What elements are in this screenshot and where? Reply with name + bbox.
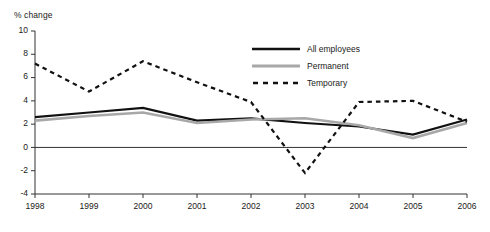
plot-area [0, 0, 490, 232]
series-lines [35, 61, 467, 173]
series-line-all-employees [35, 108, 467, 135]
series-line-temporary [35, 61, 467, 173]
line-chart: % change 10 8 6 4 2 0 -2 -4 1998 1999 20… [0, 0, 490, 232]
series-line-permanent [35, 113, 467, 139]
